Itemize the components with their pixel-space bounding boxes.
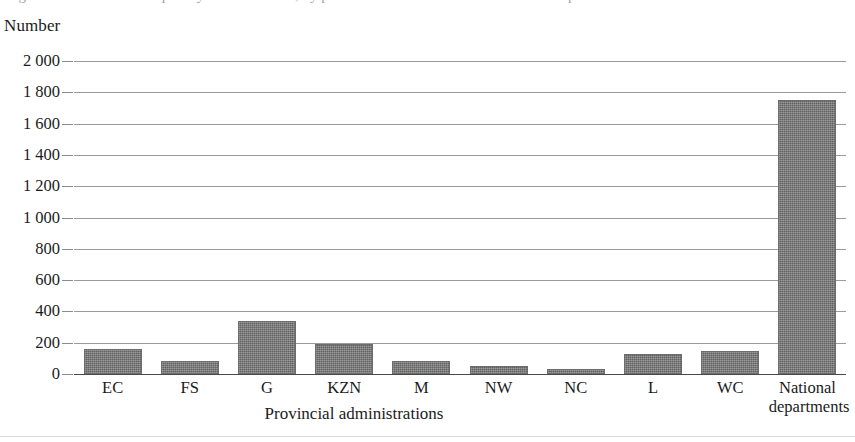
bar-national-departments (778, 100, 836, 374)
bar-wc (701, 351, 759, 374)
y-axis-tick-label: 1 800 (0, 84, 60, 101)
y-axis-tick-label: 1 400 (0, 147, 60, 164)
x-axis-tick-label: National departments (769, 378, 846, 416)
page-bottom-rule (0, 436, 855, 437)
y-axis-tick-mark (62, 92, 73, 93)
y-axis-tick-label: 0 (0, 366, 60, 383)
y-axis-tick-mark (62, 311, 73, 312)
y-axis-tick-mark (62, 124, 73, 125)
x-axis-tick-label: WC (692, 378, 769, 397)
bar-kzn (315, 344, 373, 374)
y-axis-tick-mark (62, 249, 73, 250)
x-axis-tick-label: G (228, 378, 305, 397)
y-axis-tick-label: 1 200 (0, 178, 60, 195)
y-axis-tick-label: 800 (0, 241, 60, 258)
y-axis-tick-label: 1 000 (0, 209, 60, 226)
y-axis-tick-label: 1 600 (0, 115, 60, 132)
y-axis-tick-mark (62, 61, 73, 62)
figure-caption-text: Figure 1: Number of disciplinary cases f… (6, 0, 627, 4)
x-axis-tick-label: EC (74, 378, 151, 397)
x-axis-tick-label: NW (460, 378, 537, 397)
y-axis-tick-label: 2 000 (0, 53, 60, 70)
y-axis-tick-label: 400 (0, 303, 60, 320)
bar-group (74, 61, 846, 374)
figure-caption-cutoff: Figure 1: Number of disciplinary cases f… (0, 0, 855, 12)
gridline-0 (74, 374, 846, 375)
x-axis-tick-label: KZN (306, 378, 383, 397)
y-axis-tick-label: 200 (0, 334, 60, 351)
bar-ec (84, 349, 142, 374)
bar-nw (470, 366, 528, 374)
x-axis-tick-label: M (383, 378, 460, 397)
y-axis-tick-mark (62, 280, 73, 281)
bar-l (624, 354, 682, 374)
bar-nc (547, 369, 605, 374)
chart-plot-area: 02004006008001 0001 2001 4001 6001 8002 … (74, 61, 846, 374)
x-axis-title: Provincial administrations (74, 404, 634, 424)
y-axis-tick-mark (62, 374, 73, 375)
x-axis-tick-label: L (614, 378, 691, 397)
bar-g (238, 321, 296, 374)
y-axis-tick-mark (62, 218, 73, 219)
y-axis-tick-mark (62, 343, 73, 344)
y-axis-tick-label: 600 (0, 272, 60, 289)
bar-m (392, 361, 450, 374)
x-axis-tick-label: NC (537, 378, 614, 397)
bar-fs (161, 361, 219, 374)
y-axis-unit-label: Number (4, 16, 60, 36)
y-axis-tick-mark (62, 155, 73, 156)
y-axis-tick-mark (62, 186, 73, 187)
x-axis-tick-label: FS (151, 378, 228, 397)
